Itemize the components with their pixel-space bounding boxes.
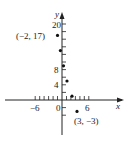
data-point — [62, 64, 65, 67]
data-point — [75, 110, 78, 113]
y-ticks — [62, 24, 66, 115]
data-point — [59, 49, 62, 52]
x-tick-label: 0 — [56, 103, 61, 113]
data-point — [56, 34, 59, 37]
x-tick-label: 6 — [85, 103, 90, 113]
scatter-plot: −6 0 6 4 8 20 x y (−2, 17) (3, −3) — [0, 0, 129, 146]
annotation-point-b: (3, −3) — [74, 116, 99, 126]
y-tick-label: 8 — [54, 65, 59, 75]
annotation-point-a: (−2, 17) — [16, 31, 45, 41]
data-point — [70, 95, 73, 98]
y-tick-label: 20 — [52, 20, 62, 30]
y-axis-label: y — [54, 9, 59, 19]
data-points — [56, 34, 79, 113]
data-point — [65, 79, 68, 82]
y-axis-arrow-icon — [60, 12, 65, 19]
x-axis-label: x — [115, 101, 120, 111]
y-tick-label: 4 — [54, 80, 59, 90]
x-tick-label: −6 — [30, 103, 40, 113]
